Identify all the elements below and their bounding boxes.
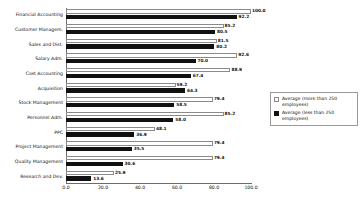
category-label: Quality Management — [15, 160, 63, 165]
bar-less: 80.2 — [66, 44, 214, 48]
x-tick-label: 60.0 — [172, 186, 182, 191]
bar-group: Salary Adm.92.670.0 — [66, 52, 251, 67]
bar-value-label: 59.2 — [177, 83, 188, 87]
category-label: Acquisition — [38, 86, 63, 91]
bar-less: 64.3 — [66, 88, 185, 92]
bar-group: Acquisition59.264.3 — [66, 81, 251, 96]
bar-less: 30.6 — [66, 162, 123, 166]
bar-less: 36.9 — [66, 132, 134, 136]
bar-more: 79.4 — [66, 156, 213, 160]
bar-group: Cost Accounting88.967.4 — [66, 67, 251, 82]
bar-less: 58.5 — [66, 103, 174, 107]
bar-more: 48.1 — [66, 127, 155, 131]
bar-less: 35.5 — [66, 147, 132, 151]
category-label: PPC — [54, 130, 63, 135]
bar-more: 88.9 — [66, 68, 230, 72]
bar-more: 79.4 — [66, 141, 213, 145]
bar-more: 79.4 — [66, 97, 213, 101]
bar-chart: Financial Accounting100.092.2Customer Ma… — [0, 0, 364, 206]
plot-area: Financial Accounting100.092.2Customer Ma… — [66, 8, 251, 184]
bar-value-label: 48.1 — [156, 127, 167, 131]
bar-value-label: 67.4 — [193, 74, 204, 78]
bar-value-label: 79.4 — [214, 141, 225, 145]
category-label: Financial Accounting — [16, 13, 63, 18]
category-label: Project Management — [16, 145, 63, 150]
bar-value-label: 58.0 — [175, 118, 186, 122]
bar-value-label: 25.9 — [115, 171, 126, 175]
bar-more: 100.0 — [66, 9, 251, 13]
bar-value-label: 92.2 — [239, 15, 250, 19]
x-tick-label: 0.0 — [62, 186, 69, 191]
legend-swatch-less — [274, 111, 279, 116]
legend-item: Average (more than 250 employees) — [274, 96, 354, 107]
bar-less: 13.6 — [66, 176, 91, 180]
category-label: Sales and Dist. — [29, 42, 63, 47]
bar-value-label: 81.5 — [218, 39, 229, 43]
bar-value-label: 64.3 — [187, 88, 198, 92]
x-tick-label: 20.0 — [98, 186, 108, 191]
bar-value-label: 80.2 — [216, 44, 227, 48]
bar-more: 25.9 — [66, 171, 114, 175]
bar-value-label: 80.5 — [217, 30, 228, 34]
bar-more: 59.2 — [66, 83, 176, 87]
category-label: Salary Adm. — [35, 57, 63, 62]
bar-value-label: 30.6 — [125, 162, 136, 166]
bar-less: 58.0 — [66, 118, 173, 122]
bar-group: Personnel Adm.85.258.0 — [66, 111, 251, 126]
bar-value-label: 70.0 — [198, 59, 209, 63]
bar-value-label: 85.2 — [225, 24, 236, 28]
category-label: Stock Management — [19, 101, 63, 106]
bar-value-label: 100.0 — [252, 9, 266, 13]
bar-group: Quality Management79.430.6 — [66, 155, 251, 170]
bar-group: Financial Accounting100.092.2 — [66, 8, 251, 23]
bar-less: 70.0 — [66, 59, 196, 63]
category-label: Cost Accounting — [26, 72, 63, 77]
chart-legend: Average (more than 250 employees)Average… — [270, 92, 358, 126]
category-label: Personnel Adm. — [27, 116, 63, 121]
bar-less: 67.4 — [66, 74, 191, 78]
bar-less: 92.2 — [66, 15, 237, 19]
bar-group: Project Management79.435.5 — [66, 140, 251, 155]
bar-value-label: 92.6 — [238, 53, 249, 57]
bar-group: PPC48.136.9 — [66, 125, 251, 140]
bar-more: 92.6 — [66, 53, 237, 57]
bar-value-label: 36.9 — [136, 132, 147, 136]
legend-swatch-more — [274, 97, 279, 102]
bar-value-label: 58.5 — [176, 103, 187, 107]
x-tick-label: 80.0 — [209, 186, 219, 191]
x-tick-label: 40.0 — [135, 186, 145, 191]
category-label: Research and Dev. — [20, 174, 63, 179]
bar-more: 85.2 — [66, 24, 224, 28]
bar-value-label: 85.2 — [225, 112, 236, 116]
legend-label: Average (less than 250 employees) — [282, 110, 354, 121]
legend-item: Average (less than 250 employees) — [274, 110, 354, 121]
bar-group: Stock Management79.458.5 — [66, 96, 251, 111]
bar-more: 81.5 — [66, 39, 217, 43]
x-tick-label: 100.0 — [244, 186, 257, 191]
bar-group: Sales and Dist.81.580.2 — [66, 37, 251, 52]
bar-value-label: 35.5 — [134, 147, 145, 151]
bar-value-label: 79.4 — [214, 156, 225, 160]
bar-less: 80.5 — [66, 30, 215, 34]
bar-group: Research and Dev.25.913.6 — [66, 169, 251, 184]
bar-more: 85.2 — [66, 112, 224, 116]
legend-label: Average (more than 250 employees) — [282, 96, 354, 107]
bar-value-label: 13.6 — [93, 176, 104, 180]
bar-value-label: 79.4 — [214, 97, 225, 101]
bar-group: Customer Managem.85.280.5 — [66, 23, 251, 38]
bar-value-label: 88.9 — [231, 68, 242, 72]
category-label: Customer Managem. — [15, 28, 63, 33]
